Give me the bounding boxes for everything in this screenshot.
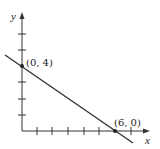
point-b-label: (6, 0) <box>114 117 141 128</box>
y-axis-arrow-icon <box>20 12 25 19</box>
point-6-0 <box>113 129 117 133</box>
x-axis-label: x <box>144 134 150 146</box>
x-axis-arrow-icon <box>143 129 150 134</box>
y-axis-label: y <box>10 10 16 22</box>
chart: y x (0, 4) (6, 0) <box>0 0 160 149</box>
point-0-4 <box>20 64 24 68</box>
point-a-label: (0, 4) <box>26 57 53 68</box>
